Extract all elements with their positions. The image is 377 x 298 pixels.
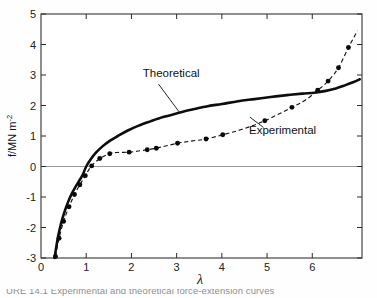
- figure-container: -3-2-1012345 0123456 TheoreticalExperime…: [0, 0, 377, 298]
- y-axis-tick-labels: -3-2-1012345: [26, 8, 36, 264]
- x-tick-label: 2: [128, 261, 134, 273]
- x-tick-label: 6: [309, 261, 315, 273]
- y-tick-label: -3: [26, 252, 36, 264]
- y-axis-title: f/MN m-2: [5, 115, 18, 157]
- data-point-marker: [154, 146, 159, 151]
- data-point-marker: [315, 88, 320, 93]
- x-tick-label: 0: [38, 261, 44, 273]
- y-axis-title-exponent: -2: [5, 115, 14, 122]
- data-point-marker: [57, 236, 62, 241]
- data-point-marker: [67, 204, 72, 209]
- data-point-marker: [204, 137, 209, 142]
- annotation-label-experimental: Experimental: [249, 124, 316, 136]
- x-tick-label: 3: [174, 261, 180, 273]
- data-point-marker: [262, 118, 267, 123]
- y-tick-label: -2: [26, 222, 36, 234]
- y-tick-label: 0: [30, 161, 36, 173]
- data-point-marker: [97, 156, 102, 161]
- data-point-marker: [336, 65, 341, 70]
- y-tick-label: 5: [30, 8, 36, 20]
- x-tick-label: 5: [264, 261, 270, 273]
- y-tick-label: -1: [26, 191, 36, 203]
- data-point-marker: [326, 79, 331, 84]
- y-axis-title-main: f/MN m: [6, 122, 18, 157]
- data-point-marker: [83, 173, 88, 178]
- x-tick-label: 4: [219, 261, 225, 273]
- data-point-marker: [145, 147, 150, 152]
- data-point-marker: [61, 219, 66, 224]
- y-tick-label: 4: [30, 39, 36, 51]
- x-axis-title: λ: [196, 272, 203, 287]
- figure-caption-strip: URE 14.1 Experimental and theoretical fo…: [0, 289, 377, 298]
- force-extension-chart: -3-2-1012345 0123456 TheoreticalExperime…: [0, 0, 377, 298]
- data-point-marker: [127, 150, 132, 155]
- y-tick-label: 2: [30, 100, 36, 112]
- data-point-marker: [346, 45, 351, 50]
- data-point-marker: [220, 132, 225, 137]
- annotation-label-theoretical: Theoretical: [143, 67, 200, 79]
- data-point-marker: [175, 141, 180, 146]
- y-axis-title-group: f/MN m-2: [5, 115, 18, 157]
- data-point-marker: [107, 151, 112, 156]
- y-tick-label: 1: [30, 130, 36, 142]
- data-point-marker: [77, 182, 82, 187]
- data-point-marker: [72, 192, 77, 197]
- data-point-marker: [89, 163, 94, 168]
- data-point-marker: [53, 254, 58, 259]
- x-tick-label: 1: [83, 261, 89, 273]
- y-tick-label: 3: [30, 69, 36, 81]
- figure-caption: URE 14.1 Experimental and theoretical fo…: [6, 289, 274, 296]
- data-point-marker: [289, 105, 294, 110]
- x-axis-tick-labels: 0123456: [38, 261, 315, 273]
